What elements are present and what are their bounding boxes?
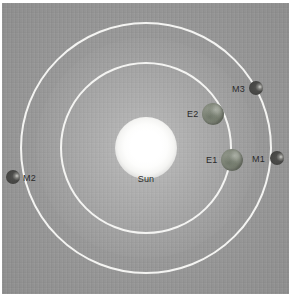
orbital-diagram: Sun E2 M3 E1 M1 M2: [0, 0, 289, 294]
body-label-M2: M2: [23, 173, 36, 183]
body-label-M1: M1: [252, 154, 265, 164]
body-label-E1: E1: [206, 155, 217, 165]
sun-label: Sun: [106, 174, 186, 184]
body-E2: [202, 103, 224, 125]
body-M1: [270, 151, 284, 165]
body-M2: [6, 170, 20, 184]
sun-body: [115, 117, 177, 179]
body-E1: [221, 149, 243, 171]
body-M3: [249, 81, 263, 95]
body-label-E2: E2: [187, 109, 198, 119]
body-label-M3: M3: [232, 84, 245, 94]
